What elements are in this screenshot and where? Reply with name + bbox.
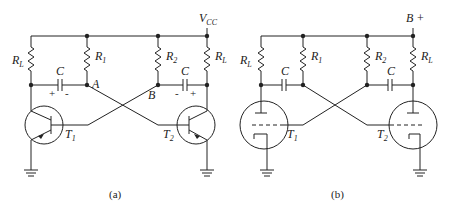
rl-left-label: RL — [11, 53, 24, 69]
cross-wire-right — [303, 85, 390, 125]
vacuum-tube-t1-icon — [240, 85, 288, 176]
svg-text:C: C — [387, 64, 396, 78]
b-plus-label: B + — [406, 11, 424, 25]
cross-wire-b-to-t1 — [62, 85, 158, 125]
resistor-rl-left-icon — [258, 36, 264, 85]
cap-left-label: C — [56, 64, 65, 78]
svg-text:R1: R1 — [310, 49, 322, 65]
caption-b: (b) — [331, 188, 344, 201]
t1-label: T1 — [65, 127, 76, 143]
svg-text:+: + — [49, 87, 55, 99]
svg-text:T1: T1 — [287, 127, 298, 143]
t2-label: T2 — [163, 127, 174, 143]
ground-icon — [413, 170, 427, 176]
multivibrator-diagram: VCC RL R1 R2 RL C + - A C - + B — [0, 0, 450, 210]
svg-text:RL: RL — [239, 53, 252, 69]
transistor-t1-icon — [24, 85, 63, 176]
svg-text:R2: R2 — [374, 49, 386, 65]
cap-right-label: C — [181, 64, 190, 78]
cross-wire-left — [283, 85, 367, 125]
panel-b-tube-multivibrator: B + RL R1 R2 RL C C T1 — [239, 11, 437, 201]
resistor-r2-icon — [364, 36, 370, 85]
resistor-r1-icon — [300, 36, 306, 85]
resistor-r1-icon — [84, 36, 90, 85]
vcc-rail — [31, 28, 207, 36]
ground-icon — [200, 170, 214, 176]
resistor-rl-left-icon — [28, 36, 34, 85]
resistor-r2-icon — [155, 36, 161, 85]
caption-a: (a) — [109, 188, 122, 201]
capacitor-c-right-icon — [158, 79, 207, 91]
svg-text:C: C — [281, 64, 290, 78]
b-plus-rail — [261, 28, 413, 36]
capacitor-c-left-icon — [261, 79, 303, 91]
svg-text:RL: RL — [420, 49, 433, 65]
node-a-label: A — [91, 77, 100, 91]
rl-right-label: RL — [214, 49, 227, 65]
svg-text:-: - — [175, 87, 179, 99]
vcc-label: VCC — [199, 11, 218, 27]
capacitor-c-right-icon — [367, 79, 413, 91]
panel-a-transistor-multivibrator: VCC RL R1 R2 RL C + - A C - + B — [11, 11, 227, 201]
svg-text:+: + — [190, 87, 196, 99]
ground-icon — [24, 170, 38, 176]
resistor-rl-right-icon — [204, 36, 210, 85]
cross-wire-a-to-t2 — [87, 85, 180, 125]
vacuum-tube-t2-icon — [389, 85, 437, 176]
svg-text:T2: T2 — [377, 127, 388, 143]
r1-label: R1 — [94, 49, 106, 65]
ground-icon — [260, 170, 274, 176]
resistor-rl-right-icon — [410, 36, 416, 85]
r2-label: R2 — [165, 49, 177, 65]
svg-text:-: - — [65, 87, 69, 99]
capacitor-c-left-icon — [31, 79, 87, 91]
